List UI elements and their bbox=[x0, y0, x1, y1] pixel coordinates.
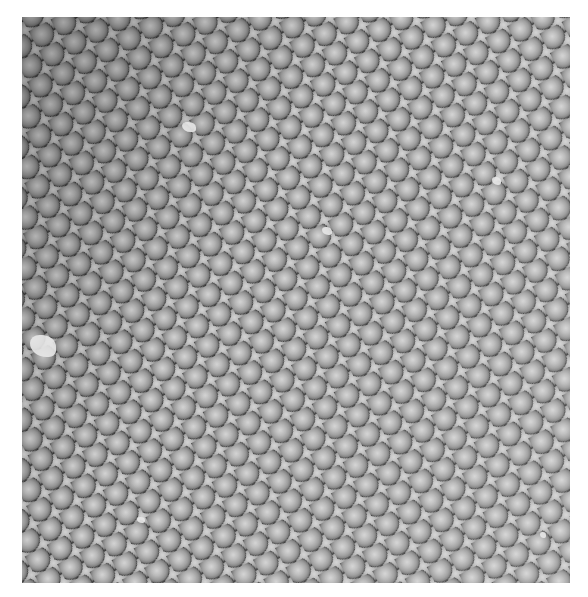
debris-particle bbox=[492, 177, 501, 185]
ommatidia-lattice bbox=[22, 17, 570, 583]
debris-particle bbox=[137, 517, 145, 523]
debris-particle bbox=[540, 532, 546, 538]
debris-particle bbox=[322, 227, 332, 235]
sem-micrograph bbox=[22, 17, 570, 583]
